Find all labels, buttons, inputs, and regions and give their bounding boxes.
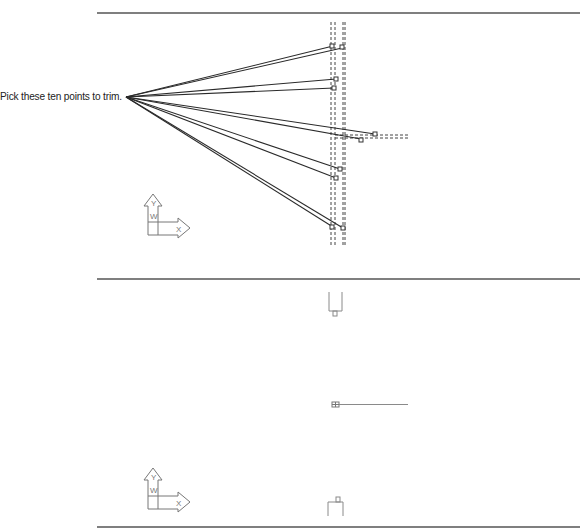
middle-stub	[332, 402, 408, 407]
after-panel: Y W X	[144, 292, 408, 516]
bottom-stub	[328, 497, 343, 516]
pick-boxes	[330, 44, 377, 230]
top-stub	[329, 292, 342, 316]
ucs-x-label: X	[176, 499, 182, 508]
ucs-y-label: Y	[151, 199, 157, 208]
trim-diagram: Y W X	[0, 0, 580, 531]
cutting-edges	[331, 22, 410, 246]
ucs-w-label: W	[150, 212, 158, 221]
ucs-icon: Y W X	[144, 194, 190, 238]
ucs-x-label: X	[176, 225, 182, 234]
diagram-canvas: Y W X	[0, 0, 580, 531]
ucs-y-label: Y	[151, 473, 157, 482]
ucs-w-label: W	[150, 486, 158, 495]
converging-lines	[126, 46, 375, 228]
ucs-icon-after: Y W X	[144, 468, 190, 512]
before-panel: Y W X	[126, 22, 410, 246]
callout-label: Pick these ten points to trim.	[0, 90, 122, 102]
